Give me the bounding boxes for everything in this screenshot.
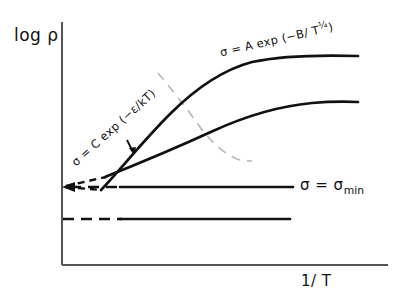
curve-arrhenius xyxy=(105,102,358,177)
figure-root: log ρ 1/ T σ = σmin σ = A exp (−B/ T¼) σ… xyxy=(0,0,403,299)
x-axis-label: 1/ T xyxy=(301,274,332,289)
sigma-min-subscript: min xyxy=(344,184,364,197)
plot-canvas xyxy=(0,0,403,299)
convergence-arrow-icon xyxy=(62,182,75,192)
sigma-min-annotation: σ = σmin xyxy=(300,178,364,197)
sigma-min-prefix: σ = σ xyxy=(300,176,344,194)
y-axis-label: log ρ xyxy=(14,27,59,44)
